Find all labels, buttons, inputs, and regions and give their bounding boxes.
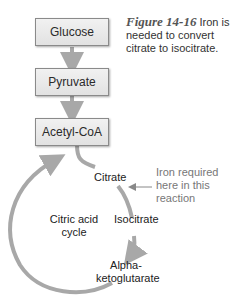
pyruvate-label: Pyruvate [48, 75, 95, 89]
citrate-label: Citrate [94, 171, 126, 184]
pyruvate-box: Pyruvate [35, 68, 109, 96]
glucose-label: Glucose [50, 25, 94, 39]
annotation-line-2: here in this [156, 179, 218, 192]
isocitrate-label: Isocitrate [114, 213, 159, 226]
glucose-box: Glucose [35, 18, 109, 46]
cycle-label-line-2: cycle [46, 226, 102, 239]
alpha-ketoglutarate-label: Alpha- ketoglutarate [96, 259, 156, 285]
acetyl-coa-label: Acetyl-CoA [42, 125, 102, 139]
annotation-line-1: Iron required [156, 166, 218, 179]
cycle-label-line-1: Citric acid [46, 213, 102, 226]
arrow-isocitrate-to-alpha [131, 236, 134, 256]
figure-label: Figure 14-16 [126, 14, 196, 29]
figure-caption: Figure 14-16 Iron is needed to convert c… [126, 15, 236, 55]
alpha-line-1: Alpha- [96, 259, 156, 272]
acetyl-coa-box: Acetyl-CoA [35, 118, 109, 146]
annotation-line-3: reaction [156, 192, 218, 205]
alpha-line-2: ketoglutarate [96, 272, 156, 285]
citric-acid-cycle-label: Citric acid cycle [46, 213, 102, 239]
arrow-acetylcoa-to-citrate [77, 145, 95, 167]
iron-annotation: Iron required here in this reaction [156, 166, 218, 205]
